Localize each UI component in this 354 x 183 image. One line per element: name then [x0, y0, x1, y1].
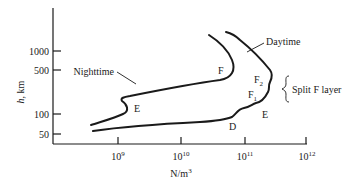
- x-tick-label: 109: [111, 150, 125, 162]
- y-tick-label: 500: [34, 65, 49, 76]
- x-tick-label: 1010: [173, 150, 191, 162]
- day-d-label: D: [229, 121, 236, 132]
- y-tick-label: 50: [39, 129, 49, 140]
- nighttime-curve: [91, 35, 234, 125]
- day-f1-label: F1: [248, 89, 258, 103]
- split-f-bracket: [282, 76, 289, 102]
- x-tick-labels: 109 1010 1011 1012: [111, 150, 316, 162]
- y-tick-label: 1000: [29, 46, 49, 57]
- nighttime-label: Nighttime: [73, 66, 114, 77]
- y-tick-label: 100: [34, 109, 49, 120]
- night-e-label: E: [134, 103, 140, 114]
- nighttime-leader: [117, 72, 136, 84]
- y-tick-labels: 1000 500 100 50: [29, 46, 49, 140]
- x-tick-label: 1011: [237, 150, 254, 162]
- x-tick-label: 1012: [299, 150, 317, 162]
- daytime-label: Daytime: [266, 36, 301, 47]
- ionosphere-density-chart: 1000 500 100 50 h, km 109 1010 1011 1012…: [0, 0, 354, 183]
- night-f-label: F: [218, 65, 224, 76]
- day-e-label: E: [262, 109, 268, 120]
- x-axis-label: N/m3: [170, 167, 192, 179]
- split-f-label: Split F layer: [292, 84, 342, 95]
- day-f2-label: F2: [254, 74, 264, 88]
- y-axis-label: h, km: [15, 80, 26, 103]
